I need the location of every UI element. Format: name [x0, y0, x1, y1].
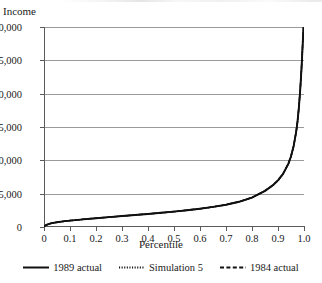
plot-area: 05,00010,00015,00020,00025,00030,000 00.… — [44, 27, 304, 227]
x-tick-mark — [252, 227, 253, 231]
y-tick-label: 15,000 — [0, 122, 22, 133]
x-tick-mark — [200, 227, 201, 231]
x-tick-mark — [44, 227, 45, 231]
series-curves — [44, 27, 304, 227]
legend-item: 1984 actual — [220, 262, 299, 273]
x-tick-mark — [148, 227, 149, 231]
x-tick-mark — [226, 227, 227, 231]
y-tick-label: 20,000 — [0, 88, 22, 99]
scan-edge-artifact — [60, 0, 322, 2]
series-line — [44, 27, 304, 226]
legend-swatch-dashed-icon — [220, 264, 246, 271]
legend-label: 1989 actual — [53, 262, 102, 273]
y-axis-title: Income — [3, 5, 36, 17]
legend-swatch-dotted-icon — [119, 264, 145, 271]
x-tick-mark — [70, 227, 71, 231]
legend-label: 1984 actual — [250, 262, 299, 273]
x-tick-mark — [304, 227, 305, 231]
legend-item: Simulation 5 — [119, 262, 203, 273]
y-tick-label: 10,000 — [0, 155, 22, 166]
series-line — [44, 27, 304, 226]
x-tick-mark — [278, 227, 279, 231]
legend-item: 1989 actual — [23, 262, 102, 273]
x-tick-mark — [96, 227, 97, 231]
series-line — [44, 27, 304, 226]
y-tick-label: 25,000 — [0, 55, 22, 66]
y-tick-label: 0 — [17, 222, 22, 233]
x-tick-mark — [122, 227, 123, 231]
y-tick-label: 30,000 — [0, 22, 22, 33]
income-percentile-chart: Income 05,00010,00015,00020,00025,00030,… — [0, 0, 322, 283]
x-axis-title: Percentile — [0, 238, 322, 250]
y-tick-label: 5,000 — [0, 188, 22, 199]
chart-legend: 1989 actualSimulation 51984 actual — [0, 262, 322, 273]
legend-label: Simulation 5 — [149, 262, 203, 273]
legend-swatch-solid-icon — [23, 264, 49, 271]
x-tick-mark — [174, 227, 175, 231]
